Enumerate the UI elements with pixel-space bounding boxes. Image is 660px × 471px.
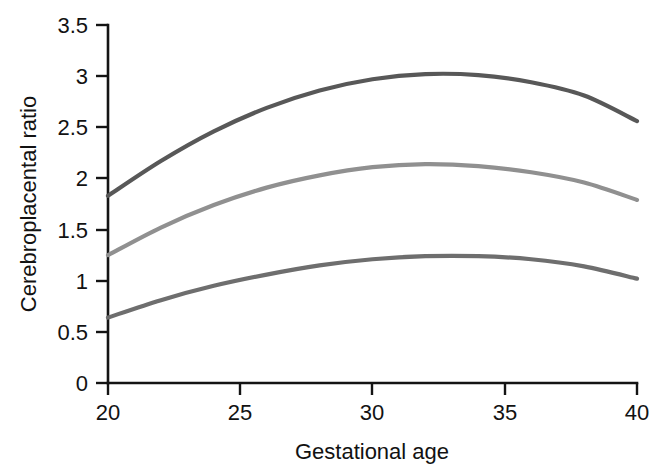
x-tick-label: 20 xyxy=(96,400,120,425)
x-axis-title: Gestational age xyxy=(295,439,449,464)
y-tick-label: 2 xyxy=(76,166,88,191)
y-axis-title: Cerebroplacental ratio xyxy=(16,96,41,312)
x-tick-label: 30 xyxy=(360,400,384,425)
y-tick-label: 1 xyxy=(76,269,88,294)
x-tick-label: 25 xyxy=(228,400,252,425)
chart-figure: 3.5 3 2.5 2 1.5 1 0.5 0 20 25 30 35 40 C… xyxy=(0,0,660,471)
y-tick-label: 3.5 xyxy=(57,13,88,38)
y-tick-label: 3 xyxy=(76,64,88,89)
y-tick-label: 0 xyxy=(76,371,88,396)
x-tick-label: 40 xyxy=(625,400,649,425)
y-tick-label: 1.5 xyxy=(57,218,88,243)
y-tick-label: 0.5 xyxy=(57,320,88,345)
y-tick-label: 2.5 xyxy=(57,115,88,140)
x-tick-label: 35 xyxy=(493,400,517,425)
